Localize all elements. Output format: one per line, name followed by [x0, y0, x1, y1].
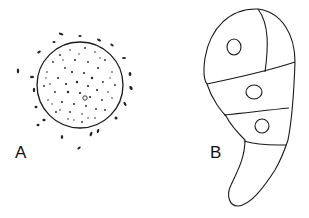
- wall-b-1: [207, 62, 295, 84]
- wall-b-2: [224, 108, 289, 115]
- panel-label-b: B: [210, 143, 221, 163]
- nucleus-b-3: [255, 119, 269, 133]
- panel-label-a: A: [15, 143, 26, 163]
- body-b-outline: [204, 9, 295, 206]
- wall-b-3: [244, 141, 286, 145]
- nucleus-b-1: [227, 39, 241, 55]
- panel-a-cell: [17, 32, 134, 150]
- cell-a-outline: [37, 42, 123, 128]
- particles-around-a: [17, 32, 134, 150]
- wall-b-vertical: [258, 9, 267, 72]
- cell-a-stipple: [43, 47, 116, 123]
- panel-b-body: [204, 9, 295, 206]
- diagram-canvas: [0, 0, 309, 218]
- nucleus-b-2: [246, 85, 262, 99]
- cell-a-vacuole: [83, 96, 87, 100]
